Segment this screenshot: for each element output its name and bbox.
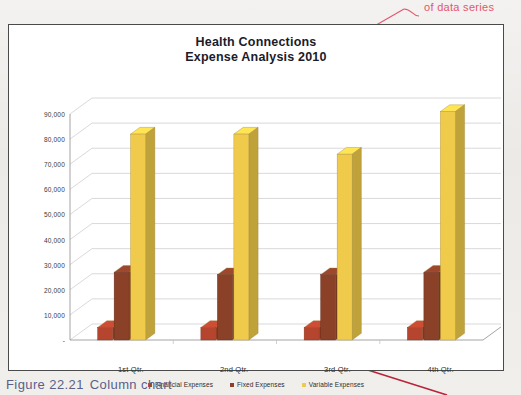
y-axis-tick: 40,000 (44, 236, 65, 243)
bar-2-3 (234, 127, 258, 340)
figure-caption: Figure 22.21Column chart (6, 377, 172, 392)
legend-item-3[interactable]: Variable Expenses (302, 381, 364, 388)
bar-3-3 (337, 147, 361, 340)
plot-area: -10,00020,00030,00040,00050,00060,00070,… (13, 29, 501, 368)
y-axis-tick: 30,000 (44, 261, 65, 268)
chart-canvas (13, 29, 501, 368)
y-axis-tick: 60,000 (44, 186, 65, 193)
y-axis-tick: - (63, 337, 65, 344)
bar-series-group (98, 105, 465, 340)
figure-caption-text: Column chart (90, 377, 172, 392)
y-axis-tick: 10,000 (44, 311, 65, 318)
x-axis-tick: 1st Qtr. (118, 365, 144, 374)
y-axis-tick: 50,000 (44, 211, 65, 218)
legend-label: Fixed Expenses (237, 381, 285, 388)
figure-number: Figure 22.21 (6, 377, 84, 392)
bar-4-3 (440, 105, 464, 340)
x-axis-tick: 2nd Qtr. (220, 365, 248, 374)
legend-swatch-icon (302, 383, 306, 387)
y-axis-tick: 70,000 (44, 161, 65, 168)
x-axis-tick: 4th Qtr. (428, 365, 454, 374)
bar-1-3 (131, 127, 155, 340)
legend-item-2[interactable]: Fixed Expenses (230, 381, 285, 388)
x-axis-tick: 3rd Qtr. (324, 365, 351, 374)
chart-container: Health Connections Expense Analysis 2010… (8, 24, 504, 371)
y-axis-tick: 90,000 (44, 111, 65, 118)
callout-annotation-label: of data series (424, 1, 494, 13)
chart-plot-region: Health Connections Expense Analysis 2010… (13, 29, 499, 366)
y-axis-tick-labels: -10,00020,00030,00040,00050,00060,00070,… (21, 29, 65, 368)
legend-swatch-icon (230, 383, 234, 387)
legend-label: Variable Expenses (309, 381, 364, 388)
y-axis-tick: 80,000 (44, 136, 65, 143)
y-axis-tick: 20,000 (44, 286, 65, 293)
